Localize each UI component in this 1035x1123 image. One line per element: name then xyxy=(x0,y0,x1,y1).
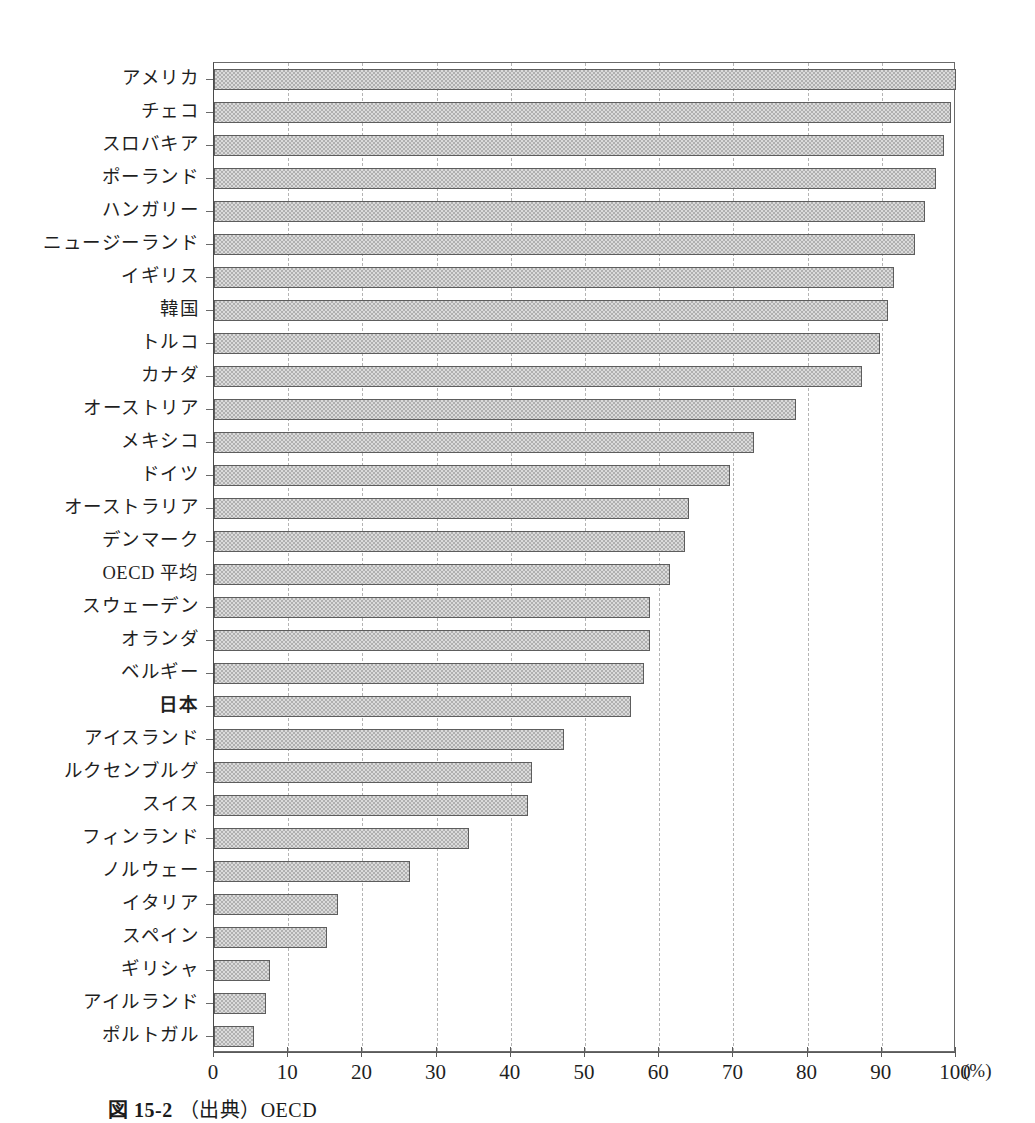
bar xyxy=(214,663,644,684)
y-axis-label: オーストラリア xyxy=(64,491,200,524)
bar xyxy=(214,993,266,1014)
y-axis-tick xyxy=(206,640,213,641)
y-axis-label: ポーランド xyxy=(102,161,200,194)
bar xyxy=(214,630,650,651)
bar xyxy=(214,597,650,618)
y-axis-label: アイスランド xyxy=(84,722,199,755)
y-axis-label: イタリア xyxy=(122,887,199,920)
y-axis-label: ニュージーランド xyxy=(43,227,199,260)
bar-row xyxy=(214,723,954,756)
bar-rows xyxy=(214,63,954,1051)
x-axis-tick-label: 100 xyxy=(939,1060,971,1085)
bar-row xyxy=(214,888,954,921)
y-axis-tick xyxy=(206,409,213,410)
bar xyxy=(214,102,951,123)
y-axis-label: OECD 平均 xyxy=(103,557,200,590)
y-axis-label: チェコ xyxy=(141,95,200,128)
bar-row xyxy=(214,261,954,294)
y-axis-label: デンマーク xyxy=(102,524,200,557)
y-axis-tick xyxy=(206,1003,213,1004)
y-axis-label: オーストリア xyxy=(83,392,199,425)
y-axis-label: ルクセンブルグ xyxy=(64,755,200,788)
y-axis-label: ベルギー xyxy=(121,656,199,689)
bar-row xyxy=(214,756,954,789)
bar xyxy=(214,927,327,948)
bar xyxy=(214,234,915,255)
bar xyxy=(214,399,796,420)
bar-row xyxy=(214,426,954,459)
bar xyxy=(214,69,956,90)
y-axis-label: トルコ xyxy=(141,326,200,359)
y-axis-tick xyxy=(206,1036,213,1037)
bar-row xyxy=(214,492,954,525)
y-axis-label: スイス xyxy=(142,788,200,821)
y-axis-label: ハンガリー xyxy=(102,194,200,227)
bar-row xyxy=(214,63,954,96)
y-axis-label: スペイン xyxy=(122,920,199,953)
y-axis-tick xyxy=(206,739,213,740)
y-axis-label: ドイツ xyxy=(141,458,200,491)
bar xyxy=(214,564,670,585)
y-axis-tick xyxy=(206,376,213,377)
x-axis-tick-100 xyxy=(955,1047,956,1057)
bar-row xyxy=(214,459,954,492)
bar xyxy=(214,300,888,321)
y-axis-tick xyxy=(206,673,213,674)
x-axis-tick-label: 30 xyxy=(425,1060,446,1085)
bar-row xyxy=(214,987,954,1020)
y-axis-label: スロバキア xyxy=(102,128,200,161)
y-axis-tick xyxy=(206,277,213,278)
y-axis-tick xyxy=(206,772,213,773)
y-axis-label: 韓国 xyxy=(160,293,199,326)
x-axis-tick-label: 20 xyxy=(351,1060,372,1085)
bar-row xyxy=(214,393,954,426)
y-axis-tick xyxy=(206,541,213,542)
y-axis-tick xyxy=(206,970,213,971)
y-axis-tick xyxy=(206,310,213,311)
y-axis-tick xyxy=(206,904,213,905)
bar xyxy=(214,465,730,486)
bar xyxy=(214,960,270,981)
bar xyxy=(214,333,880,354)
y-axis-label: アイルランド xyxy=(83,986,199,1019)
bar xyxy=(214,531,685,552)
bar-row xyxy=(214,657,954,690)
y-axis-tick xyxy=(206,805,213,806)
bar xyxy=(214,366,862,387)
bar-row xyxy=(214,822,954,855)
y-axis-label: 日本 xyxy=(159,689,199,722)
y-axis-labels: アメリカチェコスロバキアポーランドハンガリーニュージーランドイギリス韓国トルコカ… xyxy=(0,62,213,1052)
plot-area xyxy=(213,62,955,1052)
bar xyxy=(214,762,532,783)
bar xyxy=(214,1026,254,1047)
y-axis-tick xyxy=(206,838,213,839)
y-axis-label: スウェーデン xyxy=(82,590,199,623)
bar-row xyxy=(214,360,954,393)
y-axis-label: メキシコ xyxy=(121,425,199,458)
bar-row xyxy=(214,855,954,888)
bar xyxy=(214,828,469,849)
bar-row xyxy=(214,327,954,360)
y-axis-tick xyxy=(206,145,213,146)
bar-row xyxy=(214,162,954,195)
bar xyxy=(214,432,754,453)
bar-row xyxy=(214,525,954,558)
bar xyxy=(214,498,689,519)
y-axis-tick xyxy=(206,343,213,344)
y-axis-label: ノルウェー xyxy=(102,854,200,887)
x-axis-tick-label: 90 xyxy=(870,1060,891,1085)
y-axis-label: フィンランド xyxy=(82,821,199,854)
figure-caption: 図 15-2（出典）OECD xyxy=(108,1094,317,1123)
bar-row xyxy=(214,921,954,954)
y-axis-tick xyxy=(206,442,213,443)
bar xyxy=(214,168,936,189)
bar-row xyxy=(214,954,954,987)
y-axis-tick xyxy=(206,937,213,938)
x-axis-tick-label: 0 xyxy=(208,1060,219,1085)
bar-row xyxy=(214,624,954,657)
x-axis-tick-label: 10 xyxy=(277,1060,298,1085)
y-axis-label: カナダ xyxy=(141,359,200,392)
bar xyxy=(214,135,944,156)
y-axis-tick xyxy=(206,79,213,80)
